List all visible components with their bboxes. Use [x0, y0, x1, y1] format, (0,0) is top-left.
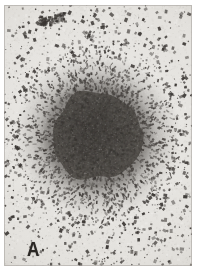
micrograph-plate — [4, 5, 192, 266]
micrograph-image — [4, 5, 192, 266]
figure-panel: A — [0, 0, 199, 274]
panel-label: A — [27, 238, 39, 259]
